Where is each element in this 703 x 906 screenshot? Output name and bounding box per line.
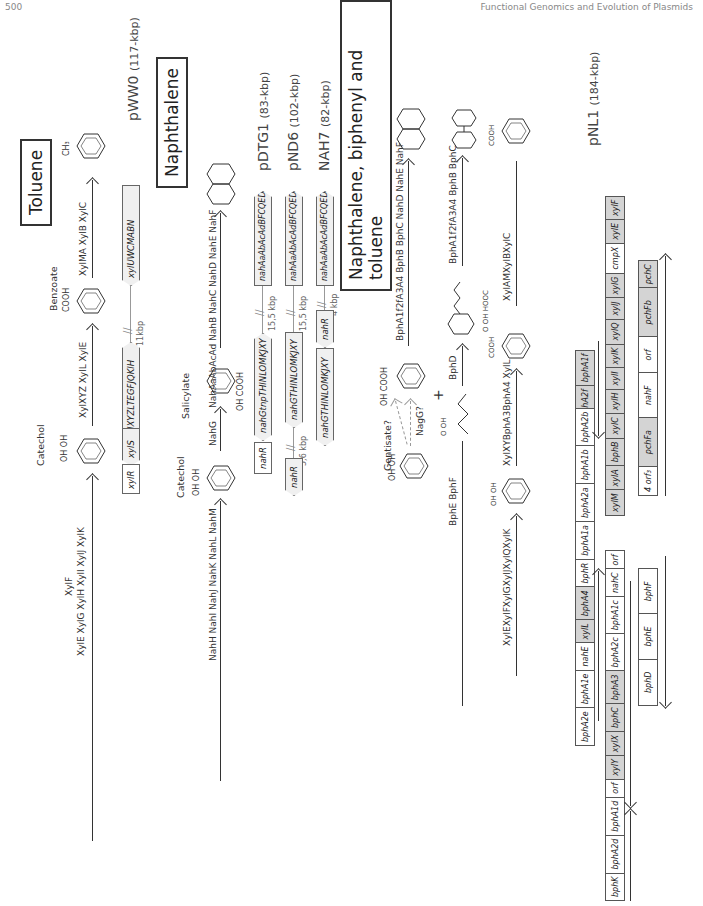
gene-bphA1d: bphA1d xyxy=(605,797,625,835)
xyl2-arrow xyxy=(516,371,517,466)
section-title-toluene: Toluene xyxy=(20,139,52,226)
toluene-step2-enzymes: XylXYZ XylL XylE xyxy=(78,342,88,418)
naph-step3-enzymes: NahH NahI NahJ NahK NahL NahM xyxy=(208,508,218,661)
gene-xylX: xylX xyxy=(605,731,625,755)
gene-xylM: xylM xyxy=(605,489,625,516)
gene-xylR: xylR xyxy=(122,464,140,494)
gene-nah7-nahR: nahR xyxy=(316,310,334,348)
gene-pdtg1-nahR: nahR xyxy=(254,442,272,474)
gene-xylS: xylS xyxy=(122,428,140,466)
gene-pnd6-lower: nahGTHINLOMKJXY xyxy=(285,332,303,428)
gene-bphA4: bphA4 xyxy=(575,587,595,620)
gentisate-arrow xyxy=(395,401,408,445)
gene-xylC: xylC xyxy=(605,413,625,437)
pnl1-row3b: bphD bphE bphF xyxy=(638,569,658,707)
gene-nahE: nahE xyxy=(575,642,595,669)
gene-bphK: bphK xyxy=(605,873,625,901)
gene-xylA: xylA xyxy=(605,465,625,489)
salicylate-groups: OH COOH xyxy=(236,372,245,411)
plus-sign: + xyxy=(430,389,446,401)
naph-step3-arrow xyxy=(220,501,221,781)
plasmid-pdtg1: pDTG1 (83-kbp) xyxy=(255,72,271,171)
gene-xylH: xylH xyxy=(605,389,625,414)
gene-pdtg1-upper: nahAaAbAcAdBFCQED xyxy=(254,191,272,286)
pww0-break: // xyxy=(122,327,133,334)
gene-pchFa: pchFa xyxy=(638,417,658,466)
naph-step1-arrow xyxy=(220,213,221,348)
gene-bphA2c: bphA2c xyxy=(605,633,625,670)
gene-bphR: bphR xyxy=(575,559,595,587)
toluene-step2-arrow xyxy=(92,326,93,426)
bphd-label: BphD xyxy=(448,355,458,380)
toluene-catechol-ring-icon xyxy=(75,436,107,466)
benzoate-ring-icon xyxy=(75,286,107,316)
pentadienoate-groups: O OH xyxy=(440,417,448,436)
pww0-gap: 11kbp xyxy=(136,321,145,346)
gene-nahF: nahF xyxy=(638,372,658,417)
gene-bphA1f: bphA1f xyxy=(575,350,595,386)
naph-catechol-label: Catechol xyxy=(175,456,186,498)
toluene-catechol-oh: OH OH xyxy=(60,435,69,462)
salicylate-ring-icon xyxy=(205,366,237,396)
gene-xylJ: xylJ xyxy=(605,297,625,318)
hopda-structure-icon xyxy=(440,274,480,336)
gene-xylQ: xylQ xyxy=(605,319,625,344)
pnl1-row3: 4 orf₃ pchFa nahF orf pchFb pchC xyxy=(638,260,658,496)
nbt-naph-arrow xyxy=(408,161,409,346)
gene-bphA2b: bphA2b xyxy=(575,408,595,446)
biph-enzymes: BphA1f2fA3A4 BphB BphC xyxy=(448,145,458,264)
gene-bphA3: bphA3 xyxy=(605,670,625,703)
gene-bphA2d: bphA2d xyxy=(605,835,625,873)
toluene-ch3: CH₃ xyxy=(62,141,71,156)
gene-xylK: xylK xyxy=(605,344,625,368)
row3b-dir-arrow xyxy=(665,556,666,706)
gene-xylL: xylL xyxy=(575,619,595,642)
gene-xylUWCMABN: xylUWCMABN xyxy=(122,185,140,286)
gene-bphF: bphF xyxy=(638,569,658,614)
gene-bphA2e: bphA2e xyxy=(575,707,595,746)
section-title-nbt: Naphthalene, biphenyl and toluene xyxy=(340,0,392,291)
benz-group: COOH xyxy=(488,125,496,146)
gene-bphA1e: bphA1e xyxy=(575,670,595,708)
nbt-catechol-ring-icon xyxy=(398,451,430,481)
toluene-step3-enzymes: XylE XylG XylH XylI XylJ XylK xyxy=(76,527,86,656)
gene-pnd6-nahR: nahR xyxy=(285,458,303,496)
xyl-enzymes: XylAMXylBXylC xyxy=(502,233,512,301)
row1b-dir-arrow xyxy=(598,571,599,721)
pnl1-row1b: bphA2e bphA1e nahE xylL bphA4 bphR bphA1… xyxy=(575,408,595,746)
gene-bphA2a: bphA2a xyxy=(575,483,595,521)
gene-pnd6-upper: nahAaAbAcAdBFCQED xyxy=(285,191,303,286)
nbt-salicylate-groups: OH COOH xyxy=(380,367,389,406)
gene-orf3: orf xyxy=(638,336,658,372)
gene-bphC: bphC xyxy=(605,703,625,731)
pdtg1-gap: 15,5 kbp xyxy=(268,296,277,331)
toluene-step3-enzymes-top: XylF xyxy=(64,577,74,596)
naphthalene-ring-icon xyxy=(205,162,237,206)
nbt-catechol-groups: OH OH xyxy=(388,454,397,481)
bphef-line xyxy=(462,441,463,706)
gene-bphA1b: bphA1b xyxy=(575,445,595,483)
bphd-arrow xyxy=(462,346,463,386)
nbt-catechol2-ring-icon xyxy=(500,476,532,506)
biph-arrow xyxy=(462,158,463,266)
pnd6-break: // xyxy=(285,309,296,316)
xyl-line xyxy=(516,161,517,306)
toluene-step1-arrow xyxy=(92,180,93,278)
xyl3-arrow xyxy=(516,516,517,676)
gene-orf2: orf xyxy=(605,550,625,568)
benzoate-nbt-ring-icon xyxy=(500,116,532,146)
naph-catechol-ring-icon xyxy=(205,463,237,493)
pnd6-break2: // xyxy=(285,444,296,451)
toluene-step3-arrow xyxy=(92,476,93,841)
gene-bphB: bphB xyxy=(605,438,625,466)
gene-pdtg1-lower: nahGtnpTHINLOMKJXY xyxy=(254,333,272,441)
gene-cmpX: cmpX xyxy=(605,243,625,273)
toluene-catechol-label: Catechol xyxy=(35,424,46,466)
gene-orf: orf xyxy=(605,779,625,797)
gene-pchFb: pchFb xyxy=(638,287,658,336)
gene-xylY: xylY xyxy=(605,755,625,779)
plasmid-pnd6: pND6 (102-kbp) xyxy=(285,74,301,171)
pnd6-gap: 15,5 kbp xyxy=(299,296,308,331)
gene-4orf: 4 orf₃ xyxy=(638,466,658,496)
gene-nah7-lower: nahGTHINLOMKJXY xyxy=(316,348,334,446)
